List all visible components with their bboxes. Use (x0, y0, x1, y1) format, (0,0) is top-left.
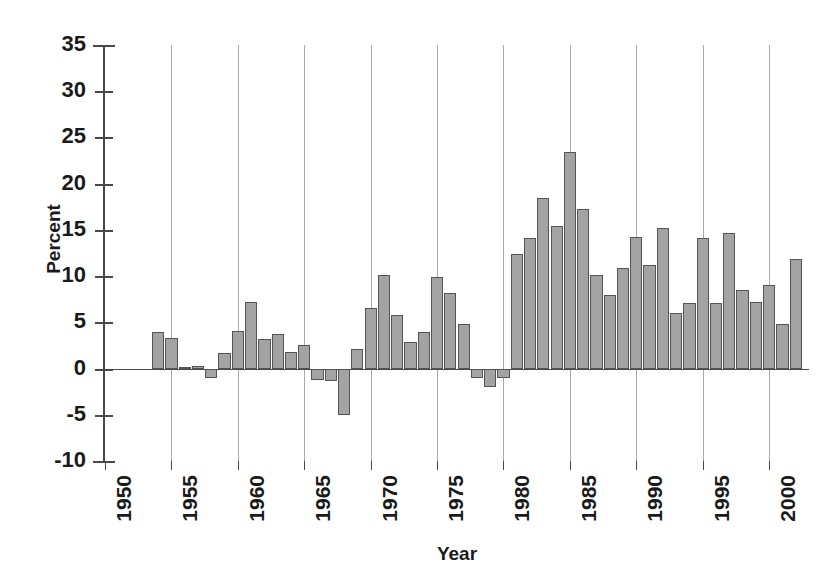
bar (643, 265, 655, 369)
gridline (238, 45, 239, 461)
bar (431, 277, 443, 369)
gridline (371, 45, 372, 461)
y-tick-label: 25 (28, 125, 86, 147)
gridline (304, 45, 305, 461)
bar (365, 308, 377, 369)
gridline (437, 45, 438, 461)
bar (670, 313, 682, 368)
bar (391, 315, 403, 369)
bar (378, 275, 390, 368)
y-tick-label: 5 (28, 310, 86, 332)
x-tick-mark (304, 461, 305, 470)
bar (232, 331, 244, 369)
bar (245, 302, 257, 369)
x-tick-mark (105, 461, 106, 470)
x-tick-mark (769, 461, 770, 470)
x-axis-title: Year (105, 543, 809, 565)
bar (338, 369, 350, 415)
bar (577, 209, 589, 369)
bar (418, 332, 430, 369)
bar (723, 233, 735, 369)
bar (471, 369, 483, 378)
bar (617, 268, 629, 369)
bar (165, 338, 177, 369)
bar (458, 324, 470, 368)
bar (630, 237, 642, 368)
x-tick-mark (636, 461, 637, 470)
bar (736, 290, 748, 369)
y-tick-label: 30 (28, 79, 86, 101)
x-tick-mark (703, 461, 704, 470)
bar (484, 369, 496, 387)
bar (205, 369, 217, 378)
bar (604, 295, 616, 369)
y-tick-label: 15 (28, 218, 86, 240)
x-tick-mark (503, 461, 504, 470)
bar (537, 198, 549, 369)
y-tick-label: 35 (28, 33, 86, 55)
bar (657, 228, 669, 369)
bar (564, 152, 576, 368)
bar (192, 366, 204, 369)
x-tick-mark (238, 461, 239, 470)
y-tick-label: 10 (28, 264, 86, 286)
x-tick-mark (171, 461, 172, 470)
y-tick-label: -5 (28, 403, 86, 425)
bar (790, 259, 802, 369)
plot-area (105, 45, 809, 461)
bar (551, 226, 563, 368)
x-tick-mark (437, 461, 438, 470)
y-tick-label: 0 (28, 357, 86, 379)
bar (351, 349, 363, 368)
bar (258, 339, 270, 369)
bar (497, 369, 509, 378)
bar (218, 353, 230, 369)
gridline (503, 45, 504, 461)
bar (763, 285, 775, 368)
bar (311, 369, 323, 380)
x-axis: 1950195519601965197019751980198519901995… (105, 461, 809, 586)
y-axis-tick-labels: 35302520151050-5-10 (28, 0, 86, 586)
bar (524, 238, 536, 368)
bar (152, 332, 164, 369)
bar (683, 303, 695, 369)
bar (697, 238, 709, 368)
bar (776, 324, 788, 368)
bar (404, 342, 416, 369)
bar-chart-figure: Percent 35302520151050-5-10 195019551960… (0, 0, 821, 586)
bar (272, 334, 284, 368)
x-tick-mark (570, 461, 571, 470)
y-tick-label: 20 (28, 172, 86, 194)
bar (710, 303, 722, 369)
gridline (769, 45, 770, 461)
gridline (171, 45, 172, 461)
bar (590, 275, 602, 368)
bar (325, 369, 337, 381)
bar (179, 367, 191, 369)
bar (298, 345, 310, 368)
y-tick-label: -10 (28, 449, 86, 471)
bar (750, 302, 762, 369)
bar (285, 352, 297, 369)
x-tick-mark (371, 461, 372, 470)
bar (511, 254, 523, 369)
bar (444, 293, 456, 369)
